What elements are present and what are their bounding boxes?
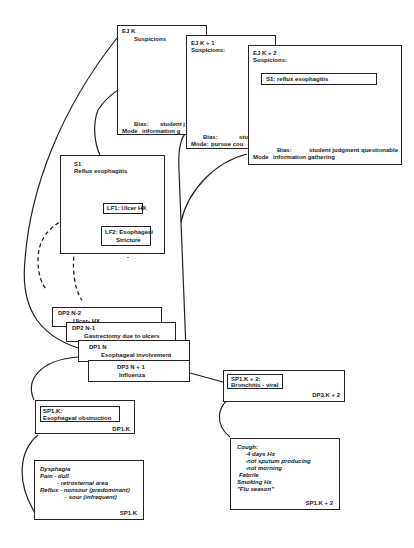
findings-box-sp1k2: Cough: -4 days Hx -not sputum producing … bbox=[230, 438, 340, 510]
bias-label: Bias: bbox=[203, 134, 218, 141]
suspicion-box-title: S1 bbox=[74, 161, 81, 168]
mode-label: Mode: bbox=[191, 141, 209, 148]
sp1k-value: Esophageal obstruction bbox=[43, 415, 111, 422]
dp-text: Gastrectomy due to ulcers bbox=[84, 333, 160, 340]
mode-value: information gathering bbox=[273, 154, 335, 161]
suspicion-text: S1: reflux esophagitis bbox=[266, 76, 328, 83]
suspicions-label: Suspicions: bbox=[253, 57, 287, 64]
finding-line: -4 days Hx bbox=[245, 451, 275, 458]
suspicion-box-subtitle: Reflux esophagitis bbox=[74, 168, 127, 175]
lf1-text: LF1: Ulcer HX bbox=[107, 205, 146, 212]
dp-text: Esophageal involvement bbox=[101, 352, 171, 359]
sp1k-footer: DP1.K bbox=[112, 426, 130, 433]
data-point-dp2-n1[interactable]: DP2 N-1 Gastrectomy due to ulcers bbox=[66, 322, 176, 342]
dp-title: DP2 N-2 bbox=[58, 310, 81, 317]
dp-title: DP1 N bbox=[89, 344, 107, 351]
findings-box-sp1k: Dysphagia Pain - dull - retrosternal are… bbox=[34, 460, 144, 520]
bias-label: Bias: bbox=[134, 121, 149, 128]
connector-ejk1-vertical bbox=[179, 134, 186, 364]
data-point-dp3-n1[interactable]: DP3 N + 1 Influenza bbox=[88, 360, 190, 382]
dp-text: Influenza bbox=[119, 372, 145, 379]
data-point-dp1-n[interactable]: DP1 N Esophageal involvement bbox=[78, 340, 190, 362]
connector-dp1-sp1k bbox=[31, 357, 78, 400]
finding-line: - sour (infrequent) bbox=[65, 494, 117, 501]
finding-line: Reflux - nonsour (predominant) bbox=[40, 487, 130, 494]
suspicion-item[interactable]: S1: reflux esophagitis bbox=[261, 73, 377, 85]
finding-line: Pain - dull bbox=[40, 473, 69, 480]
lf2-text-line1: LF2: Esophageal bbox=[105, 229, 153, 236]
sp1k-inner[interactable]: SP1.K: Esophageal obstruction bbox=[40, 406, 120, 422]
dp-title: DP3 N + 1 bbox=[117, 364, 145, 371]
sp1k2-value: Bronchitis - viral bbox=[231, 382, 278, 389]
sp1k2-box: SP1.K + 2: Bronchitis - viral DP3.K + 2 bbox=[223, 370, 345, 402]
sp1k2-inner[interactable]: SP1.K + 2: Bronchitis - viral bbox=[227, 374, 283, 389]
finding-line: Smoking Hx bbox=[237, 479, 272, 486]
findings-footer: SP1.K bbox=[120, 510, 137, 517]
lf2-text-line2: Stricture bbox=[116, 237, 141, 244]
bias-label: Bias: bbox=[277, 147, 292, 154]
suspicions-label: Suspicions bbox=[134, 36, 166, 43]
dp-title: DP2 N-1 bbox=[72, 325, 95, 332]
finding-line: - retrosternal area bbox=[57, 480, 108, 487]
episode-box-ejk2: EJ K + 2 Suspicions: S1: reflux esophagi… bbox=[248, 45, 402, 165]
sp1k-box: SP1.K: Esophageal obstruction DP1.K bbox=[35, 400, 135, 434]
bias-value: student j bbox=[160, 121, 185, 128]
episode-title: EJ K + 2 bbox=[253, 50, 277, 57]
mode-label: Mode bbox=[253, 154, 269, 161]
episode-title: EJ K + 1 bbox=[191, 40, 215, 47]
suspicions-label: Suspicions: bbox=[191, 47, 225, 54]
sp1k2-footer: DP3.K + 2 bbox=[312, 392, 340, 399]
episode-title: EJ K bbox=[122, 28, 135, 35]
finding-line: -not morning bbox=[245, 465, 282, 472]
finding-line: Dysphagia bbox=[40, 466, 70, 473]
finding-line: Cough: bbox=[237, 444, 258, 451]
bias-value: student judgment questionable bbox=[309, 147, 398, 154]
suspicion-box-s1: S1 Reflux esophagitis LF1: Ulcer HX LF2:… bbox=[60, 155, 165, 254]
sp1k-header: SP1.K: bbox=[43, 408, 62, 415]
lf1-box[interactable]: LF1: Ulcer HX bbox=[103, 203, 143, 214]
mode-value: information g bbox=[142, 128, 180, 135]
findings-footer: SP1.K + 2 bbox=[305, 500, 333, 507]
mode-value: pursue cou bbox=[211, 141, 243, 148]
connector-ejk2-vertical bbox=[181, 154, 247, 222]
lf2-box[interactable]: LF2: Esophageal Stricture bbox=[101, 226, 151, 246]
finding-line: Febrile bbox=[239, 472, 259, 479]
finding-line: -not sputum producing bbox=[245, 458, 311, 465]
finding-line: "Flu season" bbox=[237, 486, 274, 493]
mode-label: Mode bbox=[122, 128, 138, 135]
connector-dp3-sp1k2 bbox=[190, 373, 223, 382]
